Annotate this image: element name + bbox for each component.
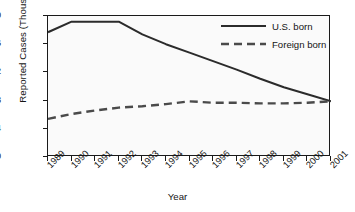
y-tick-label: 16 <box>0 37 1 48</box>
y-tick-label: 12 <box>0 65 1 76</box>
x-axis-title: Year <box>0 191 355 202</box>
y-tick-label: 4 <box>0 122 1 133</box>
legend-swatch-dashed-line <box>221 38 266 50</box>
legend-swatch-solid-line <box>221 20 266 32</box>
y-tick-label: 8 <box>0 94 1 105</box>
y-tick-label: 20 <box>0 9 1 20</box>
x-tick-label: 2001 <box>328 148 350 170</box>
y-axis-title: Reported Cases (Thousands) <box>17 0 28 114</box>
chart-legend: U.S. bornForeign born <box>221 19 336 55</box>
series-line-foreign-born <box>48 101 331 119</box>
line-chart: Reported Cases (Thousands) 048121620 198… <box>0 0 355 212</box>
y-tick-label: 0 <box>0 150 1 161</box>
legend-label: Foreign born <box>272 39 326 50</box>
legend-label: U.S. born <box>272 21 313 32</box>
legend-item: Foreign born <box>221 37 336 51</box>
legend-item: U.S. born <box>221 19 336 33</box>
